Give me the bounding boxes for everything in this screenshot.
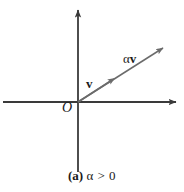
figure-canvas (0, 0, 184, 192)
alpha-symbol: α (123, 51, 130, 66)
vector-alpha-v-label: αv (123, 52, 136, 65)
caption-tag: (a) (68, 168, 83, 183)
vector-v-line (78, 80, 112, 102)
vector-v-label: v (86, 77, 93, 90)
vector-v-symbol: v (130, 51, 137, 66)
origin-label: O (62, 101, 72, 115)
caption-condition: α > 0 (86, 168, 116, 183)
vector-scalar-multiple-figure: O v αv (a) α > 0 (0, 0, 184, 192)
figure-caption: (a) α > 0 (0, 168, 184, 184)
